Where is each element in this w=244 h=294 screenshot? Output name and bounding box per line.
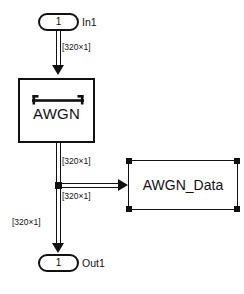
block-awgn-label: AWGN [20,106,93,121]
block-in1-port-number: 1 [56,17,62,27]
block-awgn[interactable]: AWGN [18,78,95,143]
block-out1[interactable]: 1 [38,254,79,272]
block-awgn-data-label: AWGN_Data [143,178,223,192]
block-in1[interactable]: 1 [38,13,79,31]
selection-handle-bottom-right[interactable] [234,206,240,212]
signal-branch-to-out1-dimension: [320×1] [12,218,41,227]
block-diagram-canvas[interactable]: 1 In1 [320×1] AWGN [320×1] [320×1] [320×… [0,0,244,294]
signal-branch-to-out1[interactable] [56,185,61,245]
selection-handle-top-right[interactable] [234,158,240,164]
block-awgn-data[interactable]: AWGN_Data [128,160,238,210]
signal-in1-to-awgn[interactable] [56,31,61,67]
selection-handle-bottom-left[interactable] [126,206,132,212]
selection-handle-top-left[interactable] [126,158,132,164]
signal-in1-to-awgn-arrowhead [52,65,64,75]
signal-awgn-to-branch[interactable] [56,143,61,185]
signal-branch-to-data[interactable] [58,183,120,188]
noise-bar-icon [32,92,84,103]
signal-branch-to-data-arrowhead [118,179,128,191]
signal-branch-to-out1-arrowhead [52,243,64,253]
signal-branch-to-data-dimension: [320×1] [62,192,91,201]
block-out1-port-number: 1 [56,258,62,268]
block-in1-label: In1 [82,17,97,28]
signal-in1-to-awgn-dimension: [320×1] [62,43,91,52]
block-out1-label: Out1 [82,258,105,269]
signal-awgn-to-branch-dimension: [320×1] [62,157,91,166]
